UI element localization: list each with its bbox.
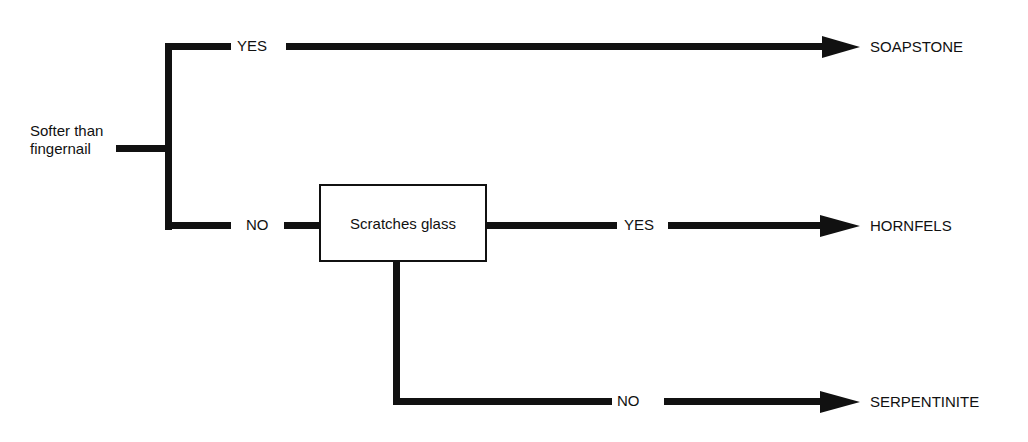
result-serpentinite: SERPENTINITE [870,393,979,411]
arrowhead-soapstone-icon [822,36,860,58]
arrowhead-serpentinite-icon [820,391,860,413]
result-soapstone: SOAPSTONE [870,38,963,56]
arrowhead-hornfels-icon [820,215,860,237]
result-hornfels: HORNFELS [870,217,952,235]
